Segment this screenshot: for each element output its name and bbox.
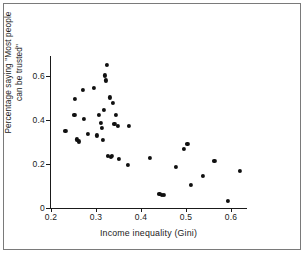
data-point bbox=[212, 159, 216, 163]
x-axis-line bbox=[50, 208, 247, 209]
y-axis-tick bbox=[46, 164, 50, 165]
y-axis-tick-label: 0.6 bbox=[33, 71, 45, 81]
y-axis-tick-label: 0 bbox=[40, 203, 45, 213]
data-point bbox=[63, 129, 67, 133]
data-point bbox=[189, 183, 193, 187]
data-point bbox=[116, 123, 120, 127]
y-axis-tick-label: 0.4 bbox=[33, 115, 45, 125]
data-point bbox=[238, 169, 242, 173]
data-point bbox=[226, 198, 230, 202]
data-point bbox=[185, 142, 189, 146]
data-point bbox=[105, 63, 109, 67]
y-axis-label-line2: can be trusted" bbox=[13, 0, 24, 148]
data-point bbox=[201, 174, 205, 178]
y-axis-line bbox=[50, 56, 51, 208]
y-axis-tick bbox=[46, 120, 50, 121]
y-axis-label: Percentage saying "Most people can be tr… bbox=[3, 0, 24, 148]
data-point bbox=[73, 97, 77, 101]
data-point bbox=[97, 113, 101, 117]
data-point bbox=[92, 86, 96, 90]
x-axis-tick-label: 0.2 bbox=[45, 212, 57, 222]
data-point bbox=[110, 154, 114, 158]
data-point bbox=[114, 113, 118, 117]
data-point bbox=[125, 163, 129, 167]
data-point bbox=[95, 133, 99, 137]
y-axis-tick bbox=[46, 76, 50, 77]
data-point bbox=[99, 121, 103, 125]
data-point bbox=[127, 124, 131, 128]
x-axis-label: Income inequality (Gini) bbox=[50, 228, 247, 238]
data-point bbox=[77, 139, 81, 143]
y-axis-tick-label: 0.2 bbox=[33, 159, 45, 169]
data-point bbox=[174, 165, 178, 169]
data-point bbox=[101, 138, 105, 142]
data-point bbox=[86, 132, 90, 136]
y-axis-label-line1: Percentage saying "Most people bbox=[3, 0, 14, 148]
plot-area: 0.20.30.40.50.600.20.40.6 bbox=[0, 0, 304, 253]
scatter-plot-figure: 0.20.30.40.50.600.20.40.6 Income inequal… bbox=[0, 0, 304, 253]
data-point bbox=[100, 126, 104, 130]
data-point bbox=[102, 108, 106, 112]
data-point bbox=[108, 95, 112, 99]
y-axis-tick bbox=[46, 208, 50, 209]
data-point bbox=[82, 117, 86, 121]
data-point bbox=[72, 113, 76, 117]
data-point bbox=[111, 101, 115, 105]
data-point bbox=[182, 147, 186, 151]
data-point bbox=[117, 156, 121, 160]
data-point bbox=[148, 156, 152, 160]
data-point bbox=[81, 88, 85, 92]
x-axis-tick-label: 0.3 bbox=[90, 212, 102, 222]
x-axis-tick-label: 0.4 bbox=[135, 212, 147, 222]
data-point bbox=[103, 73, 107, 77]
data-point bbox=[161, 193, 165, 197]
x-axis-tick-label: 0.6 bbox=[225, 212, 237, 222]
x-axis-tick-label: 0.5 bbox=[180, 212, 192, 222]
data-point bbox=[104, 78, 108, 82]
